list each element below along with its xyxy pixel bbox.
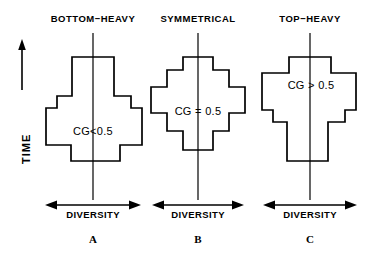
panel-c-diversity-label: DIVERSITY <box>265 209 355 220</box>
panel-b-cg-label: CG = 0.5 <box>158 105 238 117</box>
panel-a-cg-label: CG<0.5 <box>53 125 133 137</box>
time-axis-label: TIME <box>20 104 32 164</box>
panel-b-graphic <box>151 33 245 209</box>
panel-a-shape <box>46 57 142 161</box>
panel-b-diversity-label: DIVERSITY <box>153 209 243 220</box>
panel-c-title: TOP−HEAVY <box>258 13 362 24</box>
time-axis-arrow <box>18 39 26 90</box>
panel-c-graphic <box>262 33 357 209</box>
figure-root: TIME BOTTOM−HEAVY SYMMETRICAL TOP−HEAVY … <box>0 0 382 257</box>
panel-c-shape <box>262 57 356 161</box>
panel-a-letter: A <box>73 233 113 245</box>
panel-b-letter: B <box>178 233 218 245</box>
panel-a-title: BOTTOM−HEAVY <box>28 13 158 24</box>
panel-c-letter: C <box>290 233 330 245</box>
panel-c-cg-label: CG > 0.5 <box>270 79 352 91</box>
panel-b-title: SYMMETRICAL <box>145 13 251 24</box>
panel-a-diversity-label: DIVERSITY <box>48 209 138 220</box>
panel-a-graphic <box>45 33 142 209</box>
